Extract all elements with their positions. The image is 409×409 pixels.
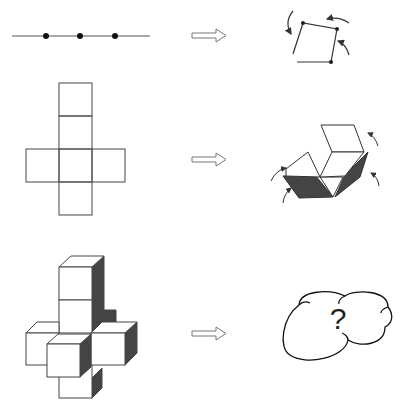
arrow-icon (192, 29, 226, 42)
question-mark: ? (323, 302, 353, 336)
diagram-svg (0, 0, 409, 409)
folding-net (271, 125, 379, 203)
arrow-icon (192, 327, 226, 340)
polycube (26, 256, 137, 398)
cube-net (26, 83, 125, 215)
hinged-line (12, 33, 150, 39)
diagram-canvas: ? (0, 0, 409, 409)
arrow-icon (192, 153, 226, 166)
folded-square (288, 11, 349, 64)
